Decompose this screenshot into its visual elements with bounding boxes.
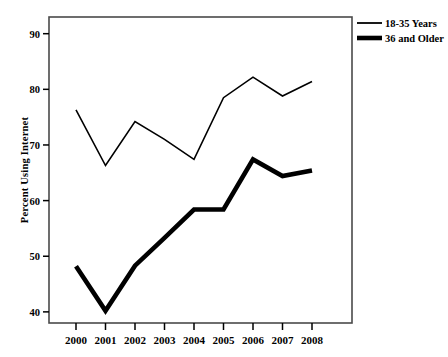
y-axis-tick-label: 90	[30, 29, 41, 40]
y-axis-tick-label: 40	[30, 307, 41, 318]
x-axis-ticks: 200020012002200320042005200620072008	[65, 323, 324, 346]
x-axis-tick-label: 2006	[242, 334, 265, 346]
line-chart-canvas: 405060708090 200020012002200320042005200…	[0, 0, 448, 357]
x-axis-tick-label: 2000	[65, 334, 88, 346]
y-axis-tick-label: 70	[30, 140, 41, 151]
y-axis-tick-label: 80	[30, 84, 41, 95]
x-axis-tick-label: 2002	[124, 334, 147, 346]
x-axis-tick-label: 2008	[301, 334, 324, 346]
y-axis-ticks: 405060708090	[30, 29, 50, 318]
x-axis-tick-label: 2007	[272, 334, 295, 346]
legend-label-36-and-older: 36 and Older	[385, 33, 444, 44]
x-axis-tick-label: 2001	[95, 334, 117, 346]
chart-legend: 18-35 Years 36 and Older	[357, 18, 444, 44]
x-axis-tick-label: 2005	[213, 334, 236, 346]
legend-label-18-35-years: 18-35 Years	[385, 18, 437, 29]
y-axis-title: Percent Using Internet	[19, 117, 30, 224]
x-axis-tick-label: 2003	[154, 334, 177, 346]
x-axis-tick-label: 2004	[183, 334, 206, 346]
y-axis-tick-label: 60	[30, 196, 41, 207]
y-axis-tick-label: 50	[30, 251, 41, 262]
chart-figure: 405060708090 200020012002200320042005200…	[0, 0, 448, 357]
